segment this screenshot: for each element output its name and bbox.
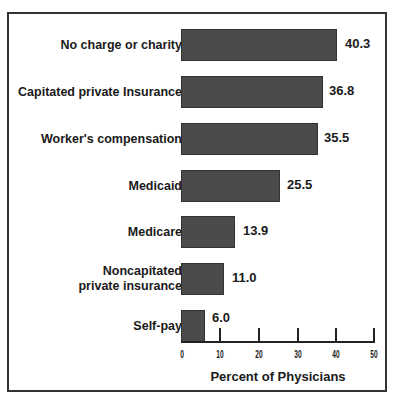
value-label: 6.0: [212, 311, 230, 325]
value-label: 36.8: [329, 84, 354, 98]
value-label: 25.5: [287, 178, 312, 192]
category-label: Noncapitated: [103, 264, 182, 278]
category-label: No charge or charity: [60, 38, 182, 52]
category-label: Medicaid: [129, 179, 183, 193]
x-tick-label: 50: [370, 348, 377, 360]
category-label: Medicare: [128, 225, 182, 239]
value-label: 35.5: [324, 131, 349, 145]
bar-noncapitated-private: [181, 263, 224, 295]
value-label: 13.9: [243, 224, 268, 238]
x-tick-label: 20: [255, 348, 262, 360]
value-label: 11.0: [232, 271, 257, 285]
value-label: 40.3: [345, 37, 370, 51]
x-tick: [219, 328, 221, 342]
x-tick: [258, 328, 260, 342]
x-tick-label: 30: [294, 348, 301, 360]
x-tick: [373, 328, 375, 342]
bar-workers-comp: [181, 123, 318, 155]
x-tick-label: 0: [180, 348, 184, 360]
bar-capitated-private: [181, 76, 323, 108]
bar-medicare: [181, 216, 235, 248]
category-label: Worker's compensation: [41, 132, 182, 146]
x-tick: [297, 328, 299, 342]
bar-no-charge: [181, 29, 337, 61]
bar-medicaid: [181, 170, 280, 202]
category-label: private insurance: [78, 279, 182, 293]
x-tick-label: 10: [216, 348, 223, 360]
x-tick-label: 40: [332, 348, 339, 360]
x-axis-line: [181, 341, 375, 343]
bar-self-pay: [181, 310, 205, 342]
x-tick: [335, 328, 337, 342]
category-label: Capitated private Insurance: [18, 85, 182, 99]
category-label: Self-pay: [133, 319, 182, 333]
x-axis-title: Percent of Physicians: [181, 369, 375, 384]
